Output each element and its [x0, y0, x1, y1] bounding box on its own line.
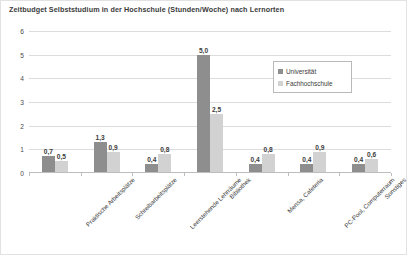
x-axis-label: Leerstehende Lehrräume [189, 176, 243, 230]
y-axis-tick-label: 1 [20, 146, 24, 153]
bar: 0,9 [107, 152, 120, 173]
x-axis-labels: Praktische ArbeitsplätzeSchreibarbeitspl… [29, 174, 391, 254]
y-axis-tick-label: 5 [20, 51, 24, 58]
bar-value-label: 0,8 [264, 146, 273, 153]
bar: 0,7 [42, 156, 55, 173]
y-axis-tick-label: 2 [20, 122, 24, 129]
legend-item: Universität [278, 65, 347, 77]
bar-group: 5,02,5 [184, 31, 236, 173]
bar-value-label: 0,4 [251, 156, 260, 163]
x-axis-line [29, 172, 391, 173]
chart-legend: UniversitätFachhochschule [273, 61, 352, 93]
bar-value-label: 0,5 [57, 153, 66, 160]
legend-label: Universität [286, 68, 316, 75]
bar-group: 0,40,8 [236, 31, 288, 173]
bar-value-label: 0,9 [315, 144, 324, 151]
bar: 2,5 [210, 114, 223, 173]
legend-item: Fachhochschule [278, 77, 347, 89]
bar-group: 0,40,9 [288, 31, 340, 173]
legend-swatch-icon [278, 69, 283, 74]
bar: 0,9 [313, 152, 326, 173]
y-axis-tick-label: 3 [20, 99, 24, 106]
y-axis-tick-label: 4 [20, 75, 24, 82]
bar-value-label: 1,3 [95, 134, 104, 141]
bar-value-label: 0,8 [160, 146, 169, 153]
x-axis-label: Praktische Arbeitsplätze [84, 176, 136, 228]
y-axis-tick-label: 6 [20, 28, 24, 35]
bar-group: 1,30,9 [81, 31, 133, 173]
bar: 0,8 [262, 154, 275, 173]
x-axis-label: PC-Pool, Computerraum [343, 176, 396, 229]
bar-group: 0,40,6 [339, 31, 391, 173]
bar: 1,3 [94, 142, 107, 173]
bar: 5,0 [197, 55, 210, 173]
bar-value-label: 0,7 [44, 148, 53, 155]
bar-value-label: 0,4 [354, 156, 363, 163]
x-axis-label: Schreibarbeitsplätze [133, 176, 178, 221]
legend-label: Fachhochschule [286, 80, 333, 87]
bar-value-label: 0,6 [367, 151, 376, 158]
bar-value-label: 2,5 [212, 106, 221, 113]
bar-value-label: 0,4 [147, 156, 156, 163]
y-axis-tick-label: 0 [20, 170, 24, 177]
legend-swatch-icon [278, 81, 283, 86]
x-axis-label: Mensa, Cafeteria [286, 176, 324, 214]
bar-value-label: 5,0 [199, 47, 208, 54]
chart-title: Zeitbudget Selbststudium in der Hochschu… [9, 5, 284, 14]
bar-value-label: 0,9 [108, 144, 117, 151]
bar: 0,6 [365, 159, 378, 173]
chart-container: Zeitbudget Selbststudium in der Hochschu… [0, 0, 407, 255]
bar-group: 0,70,5 [29, 31, 81, 173]
bar-group: 0,40,8 [132, 31, 184, 173]
bar: 0,8 [158, 154, 171, 173]
plot-area: 0123456 0,70,51,30,90,40,85,02,50,40,80,… [29, 31, 391, 173]
bar-value-label: 0,4 [302, 156, 311, 163]
